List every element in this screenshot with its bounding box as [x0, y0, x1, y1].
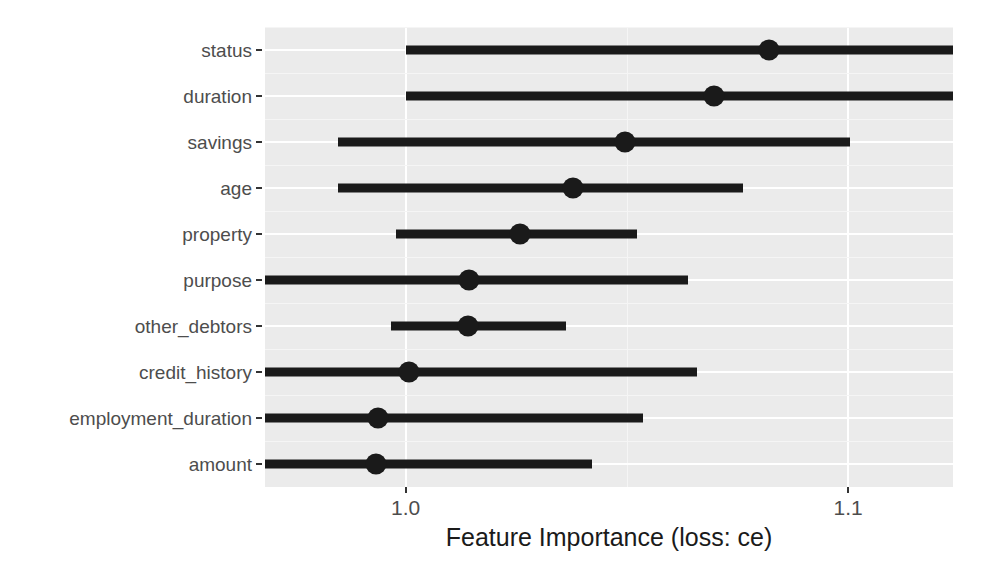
y-axis-tick-mark — [256, 417, 262, 419]
x-axis-tick-labels: 1.01.1 — [265, 496, 953, 522]
gridline-horizontal-minor — [265, 165, 953, 166]
point-estimate-dot — [759, 40, 780, 61]
y-axis-labels: statusdurationsavingsagepropertypurposeo… — [0, 27, 252, 487]
interval-bar — [406, 46, 953, 55]
x-axis-tick-label: 1.0 — [391, 496, 420, 519]
gridline-horizontal-minor — [265, 257, 953, 258]
interval-bar — [406, 92, 953, 101]
y-axis-tick-label-property: property — [182, 225, 252, 244]
interval-bar — [338, 184, 743, 193]
y-axis-tick-mark — [256, 95, 262, 97]
interval-bar — [338, 138, 849, 147]
point-estimate-dot — [458, 316, 479, 337]
y-axis-tick-label-duration: duration — [183, 87, 252, 106]
gridline-horizontal-minor — [265, 303, 953, 304]
y-axis-tick-label-status: status — [201, 41, 252, 60]
point-estimate-dot — [398, 362, 419, 383]
point-estimate-dot — [459, 270, 480, 291]
gridline-horizontal-minor — [265, 27, 953, 28]
y-axis-tick-mark — [256, 371, 262, 373]
point-estimate-dot — [367, 408, 388, 429]
point-estimate-dot — [562, 178, 583, 199]
gridline-horizontal-major — [265, 325, 953, 327]
x-axis-ticks — [265, 487, 953, 495]
x-axis-title: Feature Importance (loss: ce) — [265, 524, 953, 552]
gridline-horizontal-minor — [265, 211, 953, 212]
y-axis-ticks — [256, 27, 265, 487]
gridline-horizontal-minor — [265, 395, 953, 396]
point-estimate-dot — [510, 224, 531, 245]
plot-panel — [265, 27, 953, 487]
y-axis-tick-mark — [256, 325, 262, 327]
y-axis-tick-label-age: age — [220, 179, 252, 198]
point-estimate-dot — [366, 454, 387, 475]
gridline-horizontal-minor — [265, 441, 953, 442]
interval-bar — [391, 322, 566, 331]
y-axis-tick-label-other-debtors: other_debtors — [135, 317, 252, 336]
y-axis-tick-label-amount: amount — [189, 455, 252, 474]
gridline-horizontal-minor — [265, 349, 953, 350]
y-axis-tick-mark — [256, 279, 262, 281]
y-axis-tick-mark — [256, 49, 262, 51]
x-axis-tick-mark — [847, 487, 849, 493]
feature-importance-chart: statusdurationsavingsagepropertypurposeo… — [0, 0, 981, 586]
interval-bar — [265, 460, 592, 469]
x-axis-tick-mark — [405, 487, 407, 493]
point-estimate-dot — [703, 86, 724, 107]
interval-bar — [265, 414, 643, 423]
interval-bar — [265, 368, 697, 377]
y-axis-tick-mark — [256, 233, 262, 235]
y-axis-tick-mark — [256, 463, 262, 465]
y-axis-tick-label-employment-duration: employment_duration — [69, 409, 252, 428]
y-axis-tick-label-purpose: purpose — [183, 271, 252, 290]
y-axis-tick-label-credit-history: credit_history — [139, 363, 252, 382]
point-estimate-dot — [615, 132, 636, 153]
gridline-horizontal-minor — [265, 119, 953, 120]
y-axis-tick-mark — [256, 141, 262, 143]
y-axis-tick-mark — [256, 187, 262, 189]
x-axis-tick-label: 1.1 — [834, 496, 863, 519]
gridline-horizontal-minor — [265, 73, 953, 74]
y-axis-tick-label-savings: savings — [188, 133, 252, 152]
